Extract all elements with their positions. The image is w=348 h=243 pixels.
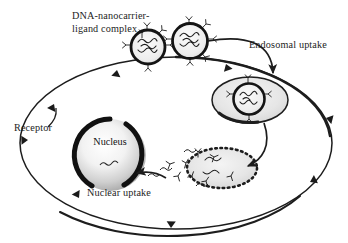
receptor-triangle: [222, 62, 233, 71]
disrupted-endosome: [187, 148, 257, 188]
nucleus-label: Nucleus: [93, 136, 126, 147]
arrow-nuclear-uptake: [137, 172, 166, 178]
receptor-triangle: [111, 69, 121, 77]
nucleus: Nucleus: [74, 119, 146, 191]
cell-membrane: [20, 57, 332, 236]
receptor-triangle: [21, 135, 28, 144]
cell-uptake-diagram: Nucleus: [0, 0, 348, 243]
receptor-label: Receptor: [14, 122, 52, 133]
disrupted-endosome-outline: [187, 148, 257, 188]
complex-label-line2: ligand complex: [72, 23, 137, 34]
nanocarrier-shell: [131, 30, 165, 64]
diagram-root: Nucleus: [0, 0, 348, 243]
receptor-triangle: [166, 221, 175, 228]
nuclear-uptake-label: Nuclear uptake: [87, 187, 151, 198]
membrane-thick-arc-lower: [60, 196, 300, 236]
complex-label-line1: DNA-nanocarrier-: [72, 10, 150, 21]
nanocarrier-shell: [173, 24, 208, 59]
receptor-triangle: [72, 190, 83, 200]
endosomal-uptake-label: Endosomal uptake: [249, 39, 327, 50]
